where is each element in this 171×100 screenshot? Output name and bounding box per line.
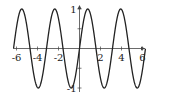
x-tick-label: -4: [33, 52, 43, 63]
x-tick-label: -6: [12, 52, 22, 63]
x-tick-label: 4: [118, 52, 124, 63]
y-axis-arrow-icon: [78, 5, 82, 9]
x-tick-label: -2: [54, 52, 64, 63]
tick-labels: -6-4-22461-1: [12, 4, 146, 94]
y-tick-label: 1: [70, 4, 76, 15]
x-axis-arrow-icon: [141, 47, 145, 51]
plot-area: -6-4-22461-1: [0, 0, 171, 100]
sine-chart: -6-4-22461-1: [0, 0, 171, 100]
